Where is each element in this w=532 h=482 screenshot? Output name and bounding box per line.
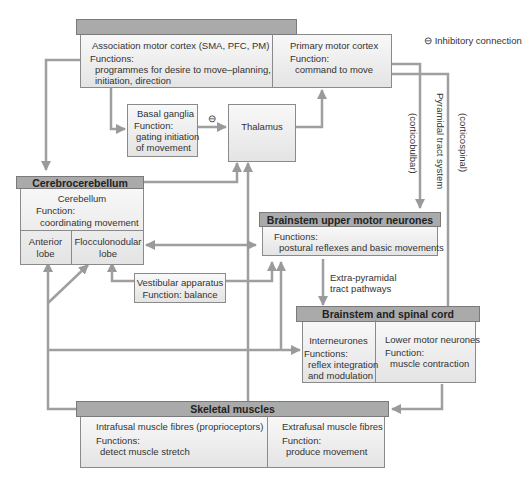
corticobulbar-label: (corticobulbar) — [408, 113, 419, 174]
cerebrocerebellum-header: Cerebrocerebellum — [16, 176, 144, 189]
cerebellum-function-label: Function: — [36, 205, 75, 216]
cerebellum-function-line1: coordinating movement — [40, 217, 139, 228]
association-function-line1: programmes for desire to move–planning, — [95, 64, 271, 75]
primary-function-label: Function: — [290, 53, 329, 64]
interneurones-name: Interneurones — [302, 335, 375, 346]
basal-ganglia-function-label: Function: — [134, 120, 173, 131]
basal-ganglia-function-line2: of movement — [136, 142, 191, 153]
interneurones-function-label: Functions: — [304, 348, 348, 359]
basal-ganglia-name: Basal ganglia — [137, 108, 194, 119]
basal-ganglia-function-line1: gating initiation — [136, 131, 199, 142]
lower-motor-name: Lower motor neurones — [385, 334, 480, 345]
brainstem-upper-function-label: Functions: — [274, 231, 318, 242]
association-cortex-name: Association motor cortex (SMA, PFC, PM) — [92, 40, 269, 51]
vestibular-line1: Vestibular apparatus — [134, 277, 226, 288]
vestibular-line2: Function: balance — [134, 289, 226, 300]
extrapyramidal-label-line1: Extra-pyramidal — [330, 272, 397, 283]
flocculonodular-lobe-line2: lobe — [72, 248, 144, 259]
inhibitory-icon: ⊖ — [424, 35, 432, 46]
brainstem-spinal-divider — [375, 320, 376, 383]
brainstem-spinal-header: Brainstem and spinal cord — [296, 306, 480, 322]
anterior-lobe-line1: Anterior — [20, 236, 71, 247]
cerebellum-divider — [20, 230, 144, 231]
motor-cortex-divider — [272, 34, 273, 88]
anterior-lobe-line2: lobe — [20, 248, 71, 259]
primary-function-line1: command to move — [295, 64, 373, 75]
extrafusal-name: Extrafusal muscle fibres — [282, 421, 383, 432]
corticospinal-label: (corticospinal) — [458, 113, 469, 172]
pyramidal-tract-label: Pyramidal tract system — [435, 93, 446, 189]
association-function-label: Functions: — [90, 53, 134, 64]
extrapyramidal-label-line2: tract pathways — [330, 283, 391, 294]
association-function-line2: initiation, direction — [95, 75, 171, 86]
lower-motor-function-line1: muscle contraction — [390, 358, 469, 369]
skeletal-muscles-header: Skeletal muscles — [76, 401, 389, 417]
lower-motor-function-label: Function: — [385, 347, 424, 358]
brainstem-upper-header: Brainstem upper motor neurones — [259, 212, 441, 227]
brainstem-upper-function-line1: postural reflexes and basic movements — [279, 242, 444, 253]
intrafusal-function-line1: detect muscle stretch — [100, 446, 190, 457]
thalamus-name: Thalamus — [228, 121, 296, 132]
intrafusal-function-label: Functions: — [96, 435, 140, 446]
primary-cortex-name: Primary motor cortex — [290, 40, 378, 51]
thalamus-box — [228, 104, 296, 162]
extrafusal-function-label: Function: — [282, 435, 321, 446]
interneurones-function-line1: reflex integration — [308, 359, 378, 370]
legend-label: Inhibitory connection — [435, 35, 522, 46]
flocculonodular-lobe-line1: Flocculonodular — [72, 236, 144, 247]
inhibitory-marker-icon: ⊖ — [208, 113, 216, 124]
interneurones-function-line2: and modulation — [308, 370, 373, 381]
legend: ⊖ Inhibitory connection — [424, 35, 522, 46]
extrafusal-function-line1: produce movement — [286, 446, 367, 457]
skeletal-muscles-divider — [267, 416, 268, 468]
motor-cortex-title-bar — [76, 19, 297, 35]
cerebellum-name: Cerebellum — [20, 193, 144, 204]
intrafusal-name: Intrafusal muscle fibres (proprioceptors… — [96, 421, 263, 432]
